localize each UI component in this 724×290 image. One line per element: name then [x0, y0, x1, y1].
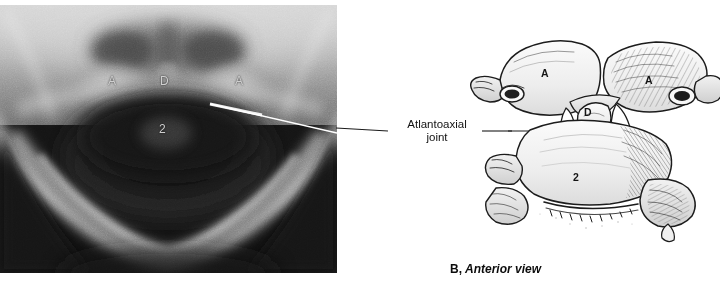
figure-caption: B,Anterior view	[450, 262, 541, 276]
anatomy-figure: A D A 2 Atlantoaxial joint	[0, 0, 724, 290]
atlas-axis-drawing	[470, 18, 720, 243]
radiograph-image	[0, 5, 337, 273]
caption-title: Anterior view	[465, 262, 541, 276]
callout-label: Atlantoaxial joint	[394, 118, 480, 144]
caption-letter: B,	[450, 262, 462, 276]
radiograph-panel: A D A 2	[0, 5, 337, 273]
line-drawing-panel: A A D 2	[470, 18, 720, 243]
